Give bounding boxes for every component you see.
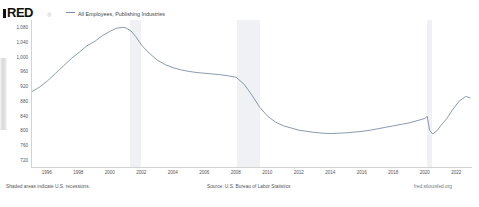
chart-footer: Shaded areas indicate U.S. recessions. S…: [0, 184, 479, 198]
fred-url-link[interactable]: fred.stlouisfed.org: [414, 184, 452, 189]
y-axis-tick-label: 920: [20, 84, 28, 89]
x-axis-tick-label: 2010: [262, 170, 272, 175]
legend-series-label: All Employees, Publishing Industries: [78, 11, 165, 17]
legend-swatch-icon: [66, 12, 75, 13]
x-axis-tick-label: 1998: [73, 170, 83, 175]
x-axis-tick-label: 2016: [357, 170, 367, 175]
fred-logo[interactable]: RED: [3, 6, 33, 19]
series-line-chart: [32, 20, 472, 167]
registered-mark-icon: ®: [47, 12, 51, 18]
x-axis-tick-label: 2008: [231, 170, 241, 175]
y-axis-tick-label: 1,040: [17, 40, 29, 45]
x-axis-tick-label: 2022: [451, 170, 461, 175]
y-axis-tick-label: 800: [20, 128, 28, 133]
y-axis-tick-label: 880: [20, 98, 28, 103]
x-axis-tick-label: 2012: [294, 170, 304, 175]
series-line: [32, 27, 470, 134]
x-axis-tick-label: 2018: [388, 170, 398, 175]
y-axis-tick-label: 760: [20, 142, 28, 147]
x-axis-tick-label: 2020: [420, 170, 430, 175]
x-axis-tick-label: 2014: [325, 170, 335, 175]
y-axis-tick-label: 1,080: [17, 25, 29, 30]
y-axis: 1,0801,0401,000960920880840800760720: [0, 20, 31, 168]
y-axis-tick-label: 960: [20, 69, 28, 74]
x-axis-tick-label: 2004: [168, 170, 178, 175]
recession-note: Shaded areas indicate U.S. recessions.: [6, 184, 90, 189]
x-axis-tick-label: 1996: [42, 170, 52, 175]
chart-legend[interactable]: All Employees, Publishing Industries: [66, 10, 165, 18]
plot-area[interactable]: [31, 20, 472, 168]
y-axis-tick-label: 840: [20, 113, 28, 118]
x-axis-tick-label: 2006: [199, 170, 209, 175]
fred-logo-bar-icon: [3, 9, 6, 18]
fred-chart-widget: RED ® All Employees, Publishing Industri…: [0, 0, 479, 207]
x-axis-tick-label: 2002: [136, 170, 146, 175]
y-axis-tick-label: 720: [20, 157, 28, 162]
source-note: Source: U.S. Bureau of Labor Statistics: [207, 184, 290, 189]
x-axis: 1996199820002002200420062008201020122014…: [31, 168, 472, 180]
x-axis-tick-label: 2000: [105, 170, 115, 175]
y-axis-tick-label: 1,000: [17, 54, 29, 59]
fred-logo-text: RED: [7, 5, 33, 20]
